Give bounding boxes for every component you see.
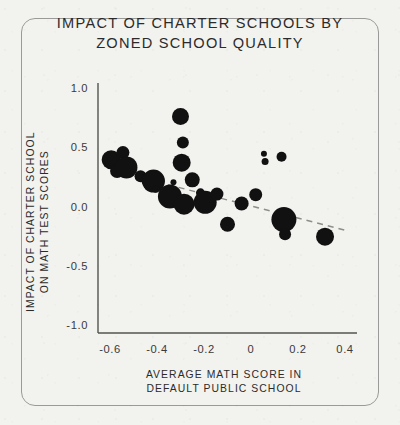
- scatter-point: [279, 228, 291, 240]
- scatter-point: [220, 217, 235, 232]
- x-tick-label: 0.2: [289, 343, 306, 355]
- y-tick-label: 0.0: [50, 201, 88, 213]
- axes: [98, 83, 357, 333]
- scatter-point: [261, 151, 267, 157]
- scatter-point: [210, 188, 223, 201]
- scatter-point: [316, 228, 334, 246]
- y-tick-label: -0.5: [50, 260, 88, 272]
- x-tick-label: 0.4: [336, 343, 353, 355]
- scatter-point: [185, 172, 200, 187]
- scatter-point: [249, 188, 262, 201]
- scatter-point: [172, 108, 189, 125]
- data-points: [102, 108, 334, 246]
- scatter-point: [170, 179, 176, 185]
- scatter-point: [174, 194, 195, 215]
- y-tick-label: 1.0: [50, 82, 88, 94]
- scatter-point: [173, 154, 191, 172]
- scatter-point: [277, 152, 287, 162]
- scatter-plot-svg: [0, 0, 400, 425]
- scatter-point: [115, 156, 137, 178]
- x-tick-label: -0.6: [99, 343, 121, 355]
- x-tick-label: 0: [248, 343, 255, 355]
- scatter-point: [177, 137, 189, 149]
- x-axis-title: AVERAGE MATH SCORE IN DEFAULT PUBLIC SCH…: [98, 368, 350, 395]
- x-tick-label: -0.4: [146, 343, 168, 355]
- y-tick-label: -1.0: [50, 319, 88, 331]
- plot-area: 1.00.50.0-0.5-1.0 -0.6-0.4-0.200.20.4: [0, 0, 400, 425]
- scatter-point: [271, 207, 296, 232]
- x-axis-title-line-1: AVERAGE MATH SCORE IN: [98, 368, 350, 382]
- y-axis-title: IMPACT OF CHARTER SCHOOL ON MATH TEST SC…: [24, 127, 51, 317]
- scatter-point: [262, 158, 269, 165]
- scatter-point: [235, 197, 249, 211]
- y-axis-title-line-1: IMPACT OF CHARTER SCHOOL: [24, 127, 38, 317]
- scatter-point: [152, 186, 159, 193]
- x-tick-label: -0.2: [193, 343, 215, 355]
- x-axis-title-line-2: DEFAULT PUBLIC SCHOOL: [98, 382, 350, 396]
- y-axis-title-line-2: ON MATH TEST SCORES: [38, 127, 52, 317]
- y-tick-label: 0.5: [50, 141, 88, 153]
